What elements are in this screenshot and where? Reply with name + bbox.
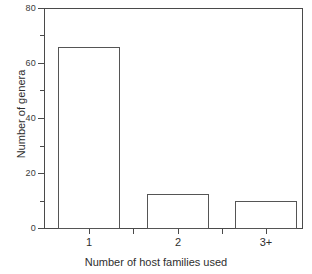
x-tick-1	[89, 229, 90, 234]
y-tick-major-60	[38, 63, 44, 64]
bar-chart-figure: 80 60 40 20 0 1 2 3+ Number of host fami…	[0, 0, 312, 274]
y-tick-minor-50	[40, 90, 44, 91]
y-tick-major-0	[38, 228, 44, 229]
bar-category-3plus	[235, 201, 297, 229]
y-axis-title: Number of genera	[15, 39, 27, 189]
x-tick-label-2: 2	[158, 236, 198, 248]
x-tick-divider-2	[222, 229, 223, 234]
y-tick-major-40	[38, 118, 44, 119]
y-tick-minor-70	[40, 35, 44, 36]
y-tick-major-80	[38, 8, 44, 9]
x-tick-label-3plus: 3+	[246, 236, 286, 248]
x-tick-2	[178, 229, 179, 234]
x-axis-title: Number of host families used	[0, 256, 312, 268]
x-tick-label-1: 1	[69, 236, 109, 248]
y-tick-minor-30	[40, 146, 44, 147]
y-tick-major-20	[38, 173, 44, 174]
bar-category-2	[147, 194, 209, 229]
y-tick-minor-10	[40, 201, 44, 202]
x-tick-divider-1	[133, 229, 134, 234]
bar-category-1	[58, 47, 120, 229]
x-tick-3plus	[266, 229, 267, 234]
y-tick-label-80: 80	[4, 3, 36, 13]
y-tick-label-0: 0	[4, 223, 36, 233]
